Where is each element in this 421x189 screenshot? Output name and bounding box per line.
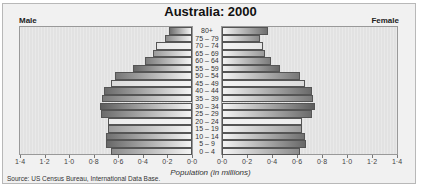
tick-label-male: 0·8	[89, 158, 99, 165]
female-bar	[222, 72, 300, 80]
female-bar	[222, 50, 265, 58]
age-group-label: 50 – 54	[192, 72, 222, 80]
male-bar	[115, 72, 192, 80]
chart-title: Australia: 2000	[0, 4, 421, 19]
tick-label-female: 0·0	[217, 158, 227, 165]
male-label: Male	[19, 16, 37, 25]
male-bar	[165, 35, 192, 43]
male-bar	[111, 80, 192, 88]
tick-label-female: 1·2	[367, 158, 377, 165]
age-group-label: 60 – 64	[192, 57, 222, 65]
female-bar	[222, 103, 315, 111]
female-bar	[222, 87, 312, 95]
age-group-label: 75 – 79	[192, 35, 222, 43]
male-bar	[169, 27, 192, 35]
female-bar	[222, 80, 305, 88]
female-bar	[222, 148, 300, 156]
male-bar	[156, 42, 192, 50]
age-group-label: 55 – 59	[192, 65, 222, 73]
female-bar	[222, 125, 302, 133]
tick-label-female: 0·8	[317, 158, 327, 165]
age-group-label: 20 – 24	[192, 118, 222, 126]
female-bar	[222, 110, 312, 118]
tick-label-female: 1·0	[342, 158, 352, 165]
female-bar	[222, 57, 271, 65]
female-bar	[222, 65, 280, 73]
female-bar	[222, 140, 306, 148]
tick-label-female: 0·4	[267, 158, 277, 165]
age-group-label: 25 – 29	[192, 110, 222, 118]
male-bar	[100, 103, 192, 111]
male-bar	[145, 57, 192, 65]
male-bar	[133, 65, 192, 73]
tick-label-female: 0·6	[292, 158, 302, 165]
tick-label-male: 1·4	[15, 158, 25, 165]
tick-label-male: 0·6	[113, 158, 123, 165]
age-group-label: 70 – 74	[192, 42, 222, 50]
female-bar	[222, 118, 302, 126]
tick-label-female: 0·2	[242, 158, 252, 165]
male-bar	[102, 95, 192, 103]
male-bar	[111, 148, 192, 156]
age-group-label: 45 – 49	[192, 80, 222, 88]
tick-label-male: 0·0	[187, 158, 197, 165]
female-label: Female	[371, 16, 399, 25]
age-group-label: 35 – 39	[192, 95, 222, 103]
female-bar	[222, 27, 268, 35]
age-group-label: 0 – 4	[192, 148, 222, 156]
male-bar	[108, 118, 192, 126]
tick-label-female: 1·4	[392, 158, 402, 165]
female-bar	[222, 35, 260, 43]
female-bar	[222, 95, 313, 103]
tick-label-male: 0·2	[162, 158, 172, 165]
male-bar	[108, 125, 192, 133]
male-bar	[106, 140, 192, 148]
age-group-label: 15 – 19	[192, 125, 222, 133]
male-bar	[101, 110, 192, 118]
age-group-label: 5 – 9	[192, 140, 222, 148]
source-note: Source: US Census Bureau, International …	[7, 175, 160, 182]
age-group-label: 65 – 69	[192, 50, 222, 58]
female-bar	[222, 133, 305, 141]
age-group-label: 80+	[192, 27, 222, 35]
age-group-label: 40 – 44	[192, 87, 222, 95]
male-bar	[104, 87, 192, 95]
female-bar	[222, 42, 263, 50]
age-group-label: 10 – 14	[192, 133, 222, 141]
age-group-label: 30 – 34	[192, 103, 222, 111]
male-bar	[106, 133, 192, 141]
tick-label-male: 0·4	[138, 158, 148, 165]
tick-label-male: 1·2	[40, 158, 50, 165]
tick-label-male: 1·0	[64, 158, 74, 165]
male-bar	[153, 50, 192, 58]
